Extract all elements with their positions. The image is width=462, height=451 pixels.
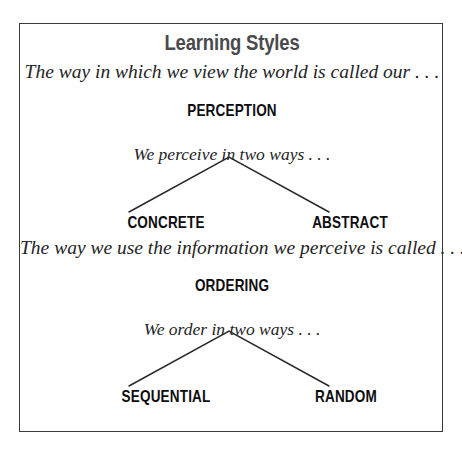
figure-frame: Learning Styles The way in which we view… [19,23,443,432]
lead-text: The way in which we view the world is ca… [20,61,444,83]
leaf-label-sequential: SEQUENTIAL [117,387,215,406]
leaf-label-abstract: ABSTRACT [301,213,399,232]
connector-perception-path [129,157,329,212]
caption-clipped [19,440,443,451]
node-heading-ordering: ORDERING [58,276,406,295]
subtitle-ordering: We order in two ways . . . [20,319,444,340]
leaf-label-concrete: CONCRETE [117,213,215,232]
subtitle-perception: We perceive in two ways . . . [20,144,444,165]
page-title: Learning Styles [50,31,415,56]
leaf-label-random: RANDOM [297,387,395,406]
bridge-text: The way we use the information we percei… [20,237,444,259]
learning-styles-figure: Learning Styles The way in which we view… [0,0,462,451]
node-heading-perception: PERCEPTION [58,101,406,120]
